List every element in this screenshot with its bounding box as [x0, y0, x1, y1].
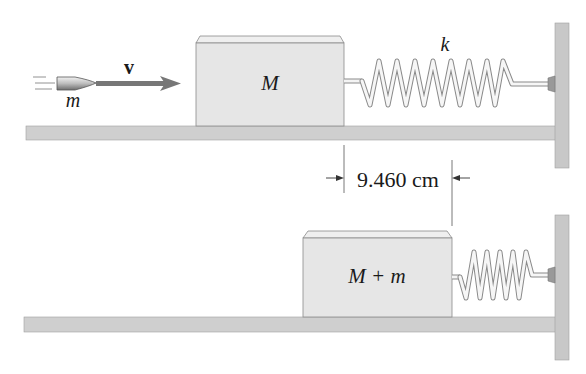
spring-compressed-icon — [452, 252, 555, 298]
bottom-wall — [555, 215, 569, 360]
top-panel: v m M k — [26, 23, 569, 168]
spring-constant-label: k — [441, 33, 451, 55]
dimension-marker: 9.460 cm — [326, 145, 470, 226]
projectile-mass-label: m — [66, 89, 80, 111]
spring-extended-icon — [344, 61, 555, 105]
motion-lines-icon — [33, 77, 55, 89]
block-M-plus-m-label: M + m — [347, 264, 405, 288]
top-floor — [26, 126, 556, 140]
block-M-label: M — [260, 71, 280, 95]
velocity-arrow-icon — [96, 76, 181, 91]
bottom-panel: M + m — [24, 215, 569, 360]
bottom-floor — [24, 317, 556, 332]
top-wall — [555, 23, 569, 168]
displacement-label: 9.460 cm — [357, 167, 439, 192]
block-M-plus-m: M + m — [303, 231, 452, 317]
block-M: M — [196, 36, 344, 126]
velocity-label: v — [124, 56, 134, 78]
diagram-canvas: v m M k 9.460 cm — [0, 0, 586, 374]
